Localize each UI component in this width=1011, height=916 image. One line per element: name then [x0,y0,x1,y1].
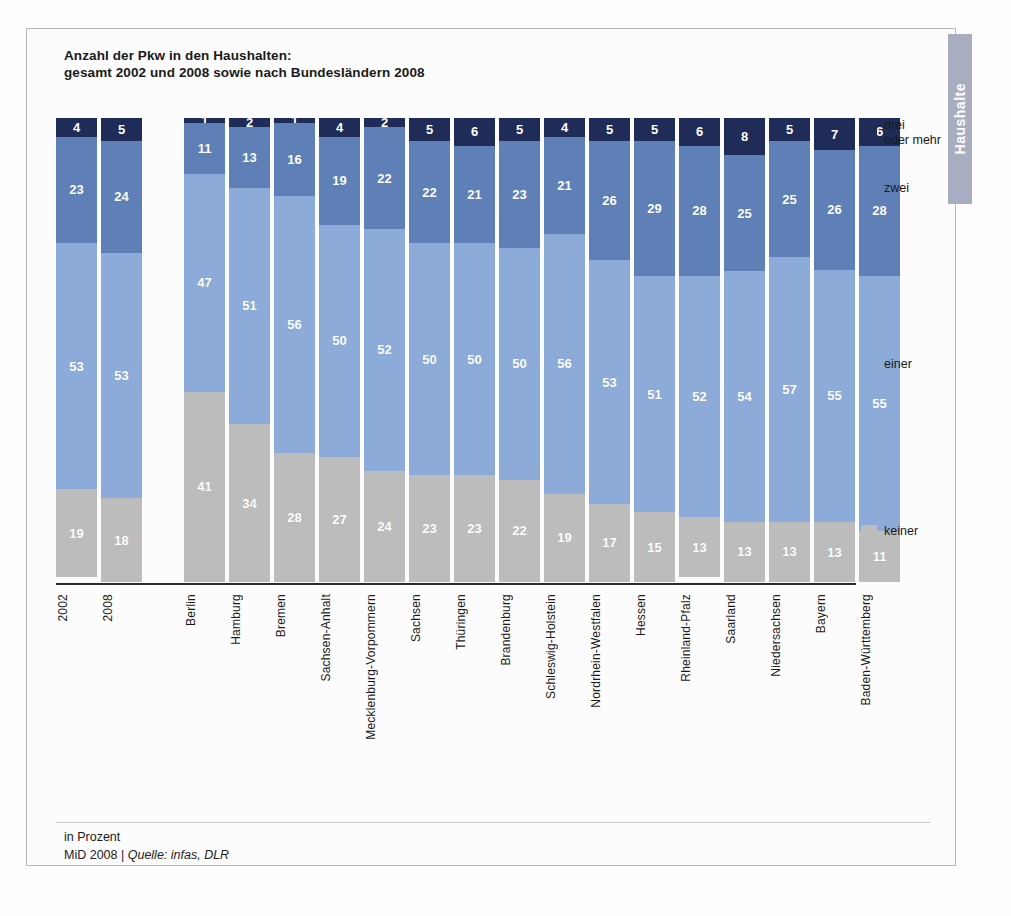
bar-segment-value: 23 [422,521,436,536]
bar-bayern: 7265513 [814,118,855,582]
bar-segment-value: 8 [741,129,748,144]
tick-label: Schleswig-Holstein [544,594,585,699]
bar-segment-value: 53 [114,368,128,383]
bar-segment-keiner: 13 [814,522,855,582]
bar-segment-value: 28 [692,203,706,218]
chart-title-line-1: Anzahl der Pkw in den Haushalten: [64,47,425,64]
bar-segment-einer: 50 [409,243,450,475]
tick-label: Bremen [274,594,315,637]
bar-segment-zwei: 19 [319,137,360,225]
bar-segment-zwei: 13 [229,127,270,187]
tick-nordrhein-westfalen: Nordrhein-Westfalen [589,590,630,820]
legend-label: drei oder mehr [884,118,941,148]
bar-segment-einer: 53 [589,260,630,504]
bar-segment-value: 53 [69,359,83,374]
tick-2008: 2008 [101,590,142,820]
tick-label: Niedersachsen [769,594,810,677]
tick-label: Sachsen [409,594,450,642]
tick-berlin: Berlin [184,590,225,820]
tick-label: Rheinland-Pfalz [679,594,720,682]
bar-mecklenburg-vorpommern: 2225224 [364,118,405,582]
bar-segment-value: 25 [782,192,796,207]
bar-segment-value: 13 [737,544,751,559]
bar-hessen: 5295115 [634,118,675,582]
bar-segment-value: 19 [332,173,346,188]
bar-segment-einer: 47 [184,174,225,392]
bar-segment-value: 24 [114,189,128,204]
bar-segment-value: 5 [786,122,793,137]
bar-segment-value: 26 [827,202,841,217]
tick-label: Berlin [184,594,225,626]
footer-source-prefix: MiD 2008 | [64,848,128,862]
tick-label: 2008 [101,594,142,622]
bar-berlin: 1114741 [184,118,225,582]
bar-group-bundeslaender: 1114741213513411656284195027222522452250… [184,118,900,582]
bar-schleswig-holstein: 4215619 [544,118,585,582]
legend-item-keiner[interactable]: keiner [861,524,918,541]
bar-segment-value: 26 [602,193,616,208]
bar-segment-einer: 55 [814,270,855,523]
tick-label: Hamburg [229,594,270,645]
bar-brandenburg: 5235022 [499,118,540,582]
bar-segment-keiner: 23 [409,475,450,582]
bar-segment-keiner: 28 [274,453,315,582]
bar-segment-value: 22 [512,523,526,538]
bar-segment-value: 53 [602,375,616,390]
bar-segment-value: 25 [737,206,751,221]
bar-segment-value: 22 [422,185,436,200]
tick-hessen: Hessen [634,590,675,820]
bar-th-ringen: 6215023 [454,118,495,582]
bar-segment-zwei: 23 [56,137,97,244]
bar-segment-drei_oder_mehr: 6 [679,118,720,146]
bar-segment-value: 56 [557,356,571,371]
bar-segment-keiner: 13 [769,522,810,582]
bar-segment-keiner: 15 [634,512,675,582]
bar-segment-keiner: 17 [589,504,630,582]
bar-segment-drei_oder_mehr: 4 [544,118,585,137]
bar-segment-value: 55 [827,388,841,403]
tick-label: Hessen [634,594,675,636]
bar-segment-zwei: 29 [634,141,675,276]
bar-segment-value: 4 [73,120,80,135]
bar-segment-value: 50 [332,333,346,348]
bar-segment-value: 28 [287,510,301,525]
legend-swatch-zwei [861,182,877,198]
footer-source-citation: Quelle: infas, DLR [128,848,229,862]
bar-segment-drei_oder_mehr: 5 [409,118,450,141]
tick-group-gesamt: 20022008 [56,590,142,820]
tick-label: Baden-Württemberg [859,594,900,705]
legend-label: zwei [884,181,909,196]
bar-segment-value: 13 [692,540,706,555]
bar-segment-value: 50 [422,352,436,367]
bar-segment-value: 2 [381,118,388,127]
footer-source: MiD 2008 | Quelle: infas, DLR [64,846,229,864]
bar-segment-value: 7 [831,127,838,142]
bar-segment-value: 6 [696,124,703,139]
bar-segment-drei_oder_mehr: 7 [814,118,855,150]
legend-item-zwei[interactable]: zwei [861,181,909,198]
bar-segment-keiner: 18 [101,498,142,582]
bar-segment-zwei: 26 [589,141,630,260]
bar-segment-drei_oder_mehr: 2 [364,118,405,127]
bar-segment-value: 27 [332,512,346,527]
bar-segment-zwei: 23 [499,141,540,248]
bar-segment-einer: 51 [229,188,270,425]
tick-label: Mecklenburg-Vorpommern [364,594,405,740]
legend-item-drei-oder-mehr[interactable]: drei oder mehr [861,118,941,148]
footer-divider [56,822,930,823]
bar-segment-value: 23 [467,521,481,536]
bar-segment-value: 18 [114,533,128,548]
bar-segment-keiner: 23 [454,475,495,582]
bar-niedersachsen: 5255713 [769,118,810,582]
bar-segment-einer: 53 [56,243,97,489]
bar-segment-zwei: 25 [769,141,810,257]
tick-sachsen: Sachsen [409,590,450,820]
tick-label: Bayern [814,594,855,633]
tick-2002: 2002 [56,590,97,820]
bar-segment-value: 13 [782,544,796,559]
legend-item-einer[interactable]: einer [861,357,912,374]
figure-root: Haushalte Anzahl der Pkw in den Haushalt… [0,0,1011,916]
tick-label: Saarland [724,594,765,644]
legend-label: einer [884,357,912,372]
bar-segment-drei_oder_mehr: 8 [724,118,765,155]
